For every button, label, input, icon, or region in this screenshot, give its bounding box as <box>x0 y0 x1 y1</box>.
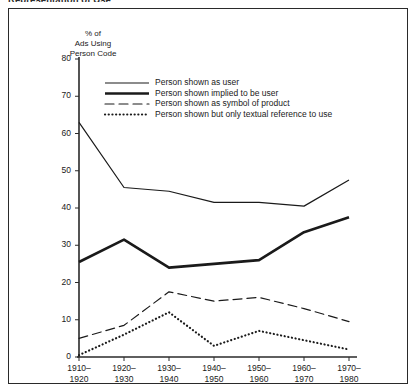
legend-label-3: Person shown but only textual reference … <box>155 109 332 119</box>
series-line-0 <box>79 122 349 206</box>
x-tick-label: 1970– 1980 <box>322 363 376 384</box>
y-tick-label: 80 <box>45 53 71 63</box>
legend-label-1: Person shown implied to be user <box>155 88 278 98</box>
y-tick-label: 70 <box>45 90 71 100</box>
y-tick-label: 10 <box>45 314 71 324</box>
series-line-3 <box>79 312 349 355</box>
y-tick-label: 30 <box>45 239 71 249</box>
figure-title: Representation of Use <box>8 0 111 2</box>
y-tick-label: 50 <box>45 165 71 175</box>
legend-label-2: Person shown as symbol of product <box>155 98 290 108</box>
line-chart-plot <box>9 9 409 385</box>
y-tick-label: 0 <box>45 351 71 361</box>
legend-label-0: Person shown as user <box>155 77 239 87</box>
chart-frame: % of Ads Using Person Code 0102030405060… <box>8 8 408 384</box>
series-line-2 <box>79 292 349 339</box>
figure: Representation of Use % of Ads Using Per… <box>0 0 417 392</box>
y-tick-label: 60 <box>45 128 71 138</box>
y-tick-label: 20 <box>45 277 71 287</box>
y-tick-label: 40 <box>45 202 71 212</box>
series-line-1 <box>79 217 349 267</box>
